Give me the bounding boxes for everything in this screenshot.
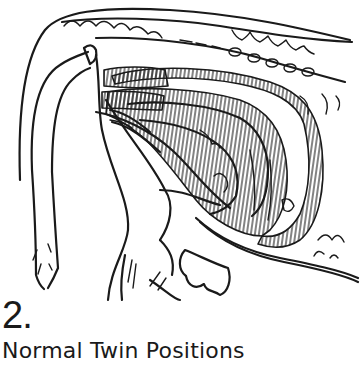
udder — [180, 250, 230, 295]
cow-anatomy-illustration — [0, 0, 361, 368]
twin-positions-figure: 2. Normal Twin Positions — [0, 0, 361, 368]
tail — [32, 45, 97, 289]
figure-caption: Normal Twin Positions — [2, 338, 245, 364]
figure-number: 2. — [2, 296, 32, 334]
